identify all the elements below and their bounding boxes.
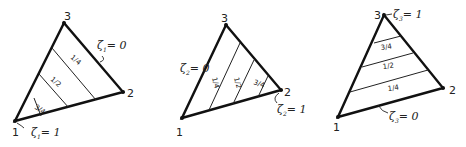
- zeta3-zero-label: ζ3= 0: [389, 110, 419, 124]
- iso-label-1-4: 1/4: [387, 83, 400, 93]
- vertex-3-label: 3: [64, 10, 71, 23]
- vertex-2-node: [279, 88, 283, 92]
- vertex-2-label: 2: [127, 87, 134, 100]
- iso-label-1-4: 1/4: [69, 53, 83, 67]
- triangle-zeta-1: 1 2 3 3/4 1/2 1/4 ζ1= 0 ζ1= 1: [12, 10, 134, 140]
- vertex-2-node: [441, 86, 445, 90]
- area-coordinates-diagram: 1 2 3 3/4 1/2 1/4 ζ1= 0 ζ1= 1 1 2 3 1/4 …: [0, 0, 466, 147]
- iso-label-1-2: 1/2: [382, 61, 394, 70]
- vertex-1-label: 1: [12, 126, 19, 139]
- vertex-2-node: [121, 90, 125, 94]
- vertex-3-node: [382, 13, 386, 17]
- vertex-1-label: 1: [333, 121, 340, 134]
- leader-zeta3-one: [386, 14, 392, 15]
- vertex-1-node: [180, 116, 184, 120]
- vertex-3-label: 3: [374, 9, 381, 22]
- triangle-1-outline: [15, 23, 123, 121]
- vertex-2-label: 2: [449, 84, 456, 97]
- zeta1-zero-label: ζ1= 0: [97, 39, 127, 53]
- leader-zeta1-zero: [100, 56, 104, 62]
- iso-label-3-4: 3/4: [252, 78, 266, 90]
- iso-line-3-4: [374, 36, 401, 43]
- leader-zeta2-one: [275, 93, 279, 103]
- zeta2-one-label: ζ2= 1: [277, 103, 307, 117]
- vertex-2-label: 2: [284, 86, 291, 99]
- zeta3-one-label: ζ3= 1: [393, 8, 423, 22]
- iso-label-3-4: 3/4: [380, 42, 393, 52]
- vertex-3-label: 3: [221, 12, 228, 25]
- vertex-1-label: 1: [176, 126, 183, 139]
- triangle-zeta-3: 1 2 3 3/4 1/2 1/4 ζ3= 1 ζ3= 0: [333, 8, 456, 134]
- zeta2-zero-label: ζ2= 0: [180, 62, 210, 76]
- vertex-1-node: [336, 115, 340, 119]
- zeta1-one-label: ζ1= 1: [31, 126, 61, 140]
- triangle-zeta-2: 1 2 3 1/4 1/2 3/4 ζ2= 0 ζ2= 1: [176, 12, 307, 139]
- vertex-1-node: [13, 119, 17, 123]
- iso-label-1-2: 1/2: [232, 76, 243, 89]
